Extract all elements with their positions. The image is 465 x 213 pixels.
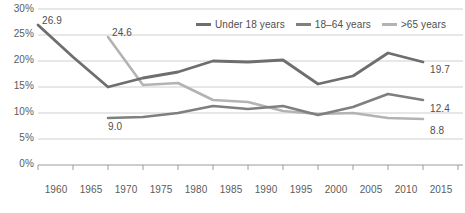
x-axis-tick-1970: 1970	[109, 184, 143, 195]
data-label-9-0: 9.0	[108, 121, 122, 132]
x-axis-ticks	[38, 165, 458, 170]
series-line-under18	[38, 25, 423, 87]
x-axis-tick-1980: 1980	[179, 184, 213, 195]
x-axis-tick-2010: 2010	[389, 184, 423, 195]
x-axis-tick-1965: 1965	[74, 184, 108, 195]
x-axis-tick-1995: 1995	[284, 184, 318, 195]
x-axis-tick-1990: 1990	[249, 184, 283, 195]
x-axis-tick-2015: 2015	[424, 184, 458, 195]
x-axis-tick-1975: 1975	[144, 184, 178, 195]
data-label-19-7: 19.7	[430, 64, 450, 75]
legend-swatch-icon-18-64	[296, 23, 311, 26]
x-axis-tick-2000: 2000	[319, 184, 353, 195]
x-axis-tick-1985: 1985	[214, 184, 248, 195]
x-axis-tick-1960: 1960	[39, 184, 73, 195]
legend-swatch-icon-under-18	[196, 23, 211, 26]
poverty-rate-line-chart: 30% 25% 20% 15% 10% 5% 0%	[0, 0, 465, 213]
legend-item-over-65-years[interactable]: >65 years	[382, 19, 446, 30]
data-label-8-8: 8.8	[430, 125, 444, 136]
legend-swatch-icon-over-65	[382, 23, 397, 26]
data-label-12-4: 12.4	[430, 103, 450, 114]
legend-item-under-18-years[interactable]: Under 18 years	[196, 19, 285, 30]
plot-area	[0, 0, 465, 213]
x-axis-tick-2005: 2005	[354, 184, 388, 195]
chart-legend: Under 18 years 18–64 years >65 years	[196, 19, 446, 30]
legend-label-under-18: Under 18 years	[215, 19, 285, 30]
legend-label-18-64: 18–64 years	[315, 19, 371, 30]
legend-item-18-64-years[interactable]: 18–64 years	[296, 19, 371, 30]
legend-label-over-65: >65 years	[401, 19, 446, 30]
data-label-26-9: 26.9	[42, 15, 62, 26]
data-label-24-6: 24.6	[112, 27, 132, 38]
